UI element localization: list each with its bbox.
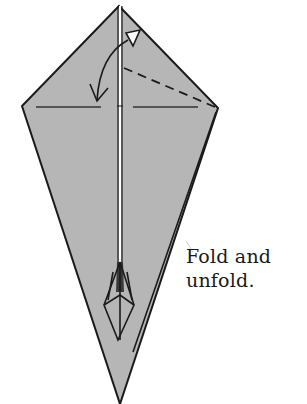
- origami-diagram: [0, 0, 307, 404]
- caption-line-2: unfold.: [186, 268, 271, 292]
- caption-line-1: Fold and: [186, 244, 271, 268]
- instruction-caption: Fold and unfold.: [186, 244, 271, 292]
